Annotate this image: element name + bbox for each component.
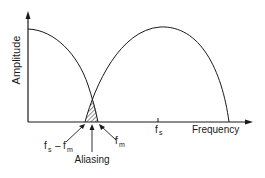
arrowhead-icon — [90, 124, 95, 130]
baseband-spectrum-curve — [28, 29, 98, 122]
svg-text:m: m — [119, 141, 125, 148]
fs-minus-fm-label: f s – f m — [44, 140, 73, 153]
x-axis-label: Frequency — [192, 124, 239, 135]
fm-label: f m — [115, 135, 125, 148]
y-axis-label: Amplitude — [10, 36, 22, 85]
y-axis-arrow-icon — [26, 11, 31, 19]
svg-text:f: f — [155, 124, 158, 135]
svg-text:s: s — [48, 146, 52, 153]
svg-text:m: m — [67, 146, 73, 153]
fm-arrow — [99, 124, 116, 140]
fs-minus-fm-arrow — [66, 124, 85, 142]
y-axis — [26, 11, 31, 122]
svg-text:s: s — [159, 129, 163, 136]
shifted-spectrum-curve — [85, 27, 229, 122]
svg-text:f: f — [44, 140, 47, 151]
svg-text:–: – — [55, 140, 61, 151]
x-axis-arrow-icon — [245, 120, 253, 125]
arrowhead-icon — [79, 124, 85, 129]
aliasing-diagram: Amplitude Frequency f s f m f s – f m Al… — [0, 0, 265, 178]
aliasing-label: Aliasing — [74, 154, 109, 165]
fs-label: f s — [155, 124, 163, 136]
svg-text:f: f — [115, 135, 118, 146]
svg-text:f: f — [63, 140, 66, 151]
aliasing-arrow — [90, 124, 95, 152]
